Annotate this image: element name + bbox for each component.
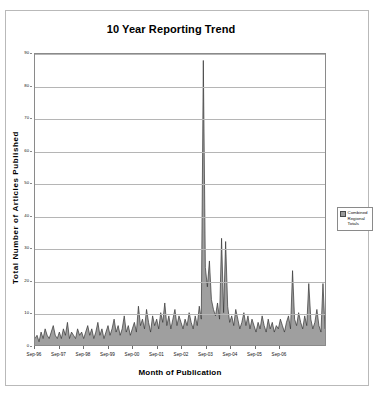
x-tick-mark-sep-97	[59, 346, 60, 349]
y-tick-label-40: 40	[24, 214, 29, 218]
gridline-y-30	[35, 249, 325, 250]
x-tick-label-sep-04: Sep-04	[223, 352, 238, 357]
x-tick-label-sep-03: Sep-03	[198, 352, 213, 357]
x-tick-label-sep-01: Sep-01	[149, 352, 164, 357]
gridline-y-70	[35, 119, 325, 120]
x-tick-label-sep-97: Sep-97	[51, 352, 66, 357]
x-tick-label-sep-05: Sep-05	[247, 352, 262, 357]
area-series-combined-regional-totals	[35, 54, 325, 345]
x-axis-tick-group: Sep-96Sep-97Sep-98Sep-99Sep-00Sep-01Sep-…	[34, 346, 326, 364]
x-tick-label-sep-99: Sep-99	[100, 352, 115, 357]
y-tick-label-70: 70	[24, 116, 29, 120]
legend-swatch-icon	[340, 211, 346, 217]
chart-legend: Combined Regional Totals	[337, 207, 373, 231]
y-tick-mark-20	[30, 281, 32, 282]
y-tick-label-80: 80	[24, 84, 29, 88]
y-tick-label-10: 10	[24, 311, 29, 315]
gridline-y-90	[35, 54, 325, 55]
x-tick-mark-sep-05	[255, 346, 256, 349]
y-tick-label-20: 20	[24, 279, 29, 283]
x-tick-mark-sep-00	[132, 346, 133, 349]
y-tick-mark-60	[30, 151, 32, 152]
x-tick-mark-sep-03	[206, 346, 207, 349]
y-tick-label-50: 50	[24, 181, 29, 185]
y-tick-label-60: 60	[24, 149, 29, 153]
x-tick-mark-sep-04	[230, 346, 231, 349]
y-tick-label-0: 0	[27, 344, 29, 348]
chart-title: 10 Year Reporting Trend	[6, 23, 336, 35]
x-axis-title: Month of Publication	[34, 368, 326, 377]
gridline-y-40	[35, 217, 325, 218]
legend-item-label: Combined Regional Totals	[348, 210, 368, 227]
x-tick-mark-sep-99	[108, 346, 109, 349]
y-axis-tick-group: 0102030405060708090	[6, 53, 32, 346]
y-tick-mark-70	[30, 118, 32, 119]
gridline-y-10	[35, 314, 325, 315]
y-tick-mark-0	[30, 346, 32, 347]
y-tick-mark-80	[30, 86, 32, 87]
legend-label-line-1: Combined	[348, 210, 368, 216]
y-tick-mark-30	[30, 248, 32, 249]
y-tick-mark-50	[30, 183, 32, 184]
x-tick-mark-sep-02	[181, 346, 182, 349]
gridline-y-50	[35, 184, 325, 185]
x-tick-mark-sep-06	[279, 346, 280, 349]
x-tick-label-sep-02: Sep-02	[174, 352, 189, 357]
y-tick-mark-90	[30, 53, 32, 54]
x-tick-mark-sep-98	[83, 346, 84, 349]
x-tick-label-sep-06: Sep-06	[272, 352, 287, 357]
legend-label-line-3: Totals	[348, 221, 368, 227]
y-tick-label-30: 30	[24, 246, 29, 250]
x-tick-mark-sep-96	[34, 346, 35, 349]
gridline-y-60	[35, 152, 325, 153]
x-tick-label-sep-98: Sep-98	[76, 352, 91, 357]
y-tick-mark-40	[30, 216, 32, 217]
x-tick-mark-sep-01	[157, 346, 158, 349]
y-tick-label-90: 90	[24, 51, 29, 55]
legend-item-combined-regional-totals: Combined Regional Totals	[340, 210, 370, 227]
plot-area	[34, 53, 326, 346]
gridline-y-20	[35, 282, 325, 283]
y-tick-mark-10	[30, 313, 32, 314]
gridline-y-80	[35, 87, 325, 88]
chart-figure-frame: 10 Year Reporting Trend Total Number of …	[5, 10, 369, 386]
x-tick-label-sep-00: Sep-00	[125, 352, 140, 357]
x-tick-label-sep-96: Sep-96	[27, 352, 42, 357]
